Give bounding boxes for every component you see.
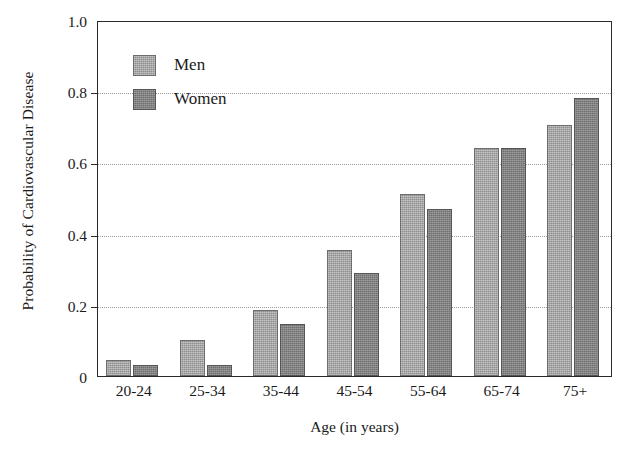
bar-group xyxy=(319,22,393,376)
bar-men-75+ xyxy=(547,125,572,376)
bar-group xyxy=(392,22,466,376)
x-axis-tick-label: 75+ xyxy=(538,382,612,400)
bar-men-25-34 xyxy=(180,340,205,376)
legend-item-women: Women xyxy=(133,82,283,116)
y-axis-tick-mark xyxy=(91,93,98,94)
bar-men-35-44 xyxy=(253,310,278,376)
bar-men-20-24 xyxy=(106,360,131,376)
x-axis-tick-label: 35-44 xyxy=(244,382,318,400)
legend-swatch-women-icon xyxy=(133,89,156,110)
y-axis-tick-mark xyxy=(91,164,98,165)
chart-title xyxy=(0,0,631,5)
y-axis-title: Probability of Cardiovascular Disease xyxy=(19,11,37,371)
y-axis-tick-label: 1.0 xyxy=(68,13,87,31)
bar-women-35-44 xyxy=(280,324,305,376)
x-axis-tick-label: 65-74 xyxy=(465,382,539,400)
bar-women-25-34 xyxy=(207,365,232,376)
bar-group xyxy=(539,22,613,376)
legend-label-men: Men xyxy=(174,55,205,75)
legend-item-men: Men xyxy=(133,48,283,82)
chart-legend: Men Women xyxy=(133,48,283,116)
x-axis-tick-label: 45-54 xyxy=(318,382,392,400)
x-axis-tick-label: 25-34 xyxy=(171,382,245,400)
bar-group xyxy=(466,22,540,376)
y-axis-tick-label: 0.6 xyxy=(68,155,87,173)
legend-swatch-men-icon xyxy=(133,55,156,76)
bar-women-20-24 xyxy=(133,365,158,376)
x-axis-tick-label: 55-64 xyxy=(391,382,465,400)
bar-women-55-64 xyxy=(427,209,452,376)
y-axis-tick-mark xyxy=(91,236,98,237)
x-axis-tick-label: 20-24 xyxy=(97,382,171,400)
legend-label-women: Women xyxy=(174,89,226,109)
y-axis-tick-mark xyxy=(91,307,98,308)
y-axis-tick-label: 0.8 xyxy=(68,84,87,102)
y-axis-tick-label: 0.2 xyxy=(68,298,87,316)
bar-women-45-54 xyxy=(354,273,379,376)
x-axis-title: Age (in years) xyxy=(97,418,612,436)
bar-women-75+ xyxy=(574,98,599,376)
bar-men-55-64 xyxy=(400,194,425,376)
y-axis-tick-label: 0 xyxy=(79,369,87,387)
bar-women-65-74 xyxy=(501,148,526,376)
chart-figure: Probability of Cardiovascular Disease 1.… xyxy=(0,0,631,454)
y-axis-tick-label: 0.4 xyxy=(68,227,87,245)
bar-men-65-74 xyxy=(474,148,499,376)
bar-men-45-54 xyxy=(327,250,352,376)
